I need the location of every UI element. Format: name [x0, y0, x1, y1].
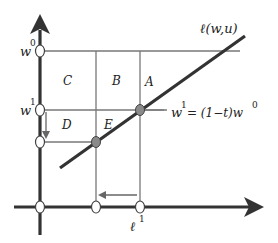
region-b: B	[111, 74, 121, 88]
point-origin	[36, 201, 45, 213]
region-d: D	[61, 118, 72, 132]
down-arrow	[42, 112, 50, 139]
l1-label-base: ℓ	[130, 219, 136, 234]
w0-label-sup: 0	[30, 38, 36, 48]
equation-lhs-sup: 1	[181, 100, 187, 110]
l1-label-sup: 1	[139, 214, 145, 224]
region-c: C	[63, 74, 72, 88]
point-x-left	[92, 201, 101, 213]
point-w1-intersection	[136, 105, 145, 116]
open-points	[36, 45, 145, 213]
region-a: A	[144, 75, 154, 89]
point-w0-axis	[36, 45, 45, 57]
curve-label: ℓ(w,u)	[200, 21, 238, 36]
w1-label-sup: 1	[30, 97, 36, 107]
left-arrow	[98, 191, 137, 199]
equation-rhs-sup: 0	[252, 100, 258, 110]
equation-rhs: = (1−t)w	[187, 106, 244, 120]
point-w1-axis	[36, 104, 45, 116]
wage-labor-diagram: ℓ(w,u) w 0 w 1 ℓ 1 C B A D E w 1 = (1−t)…	[0, 0, 278, 243]
labor-curve	[60, 36, 245, 168]
point-w1-lower-intersection	[92, 137, 101, 148]
point-x-l1	[136, 201, 145, 213]
region-e: E	[103, 118, 113, 132]
point-lower-axis	[36, 136, 45, 148]
